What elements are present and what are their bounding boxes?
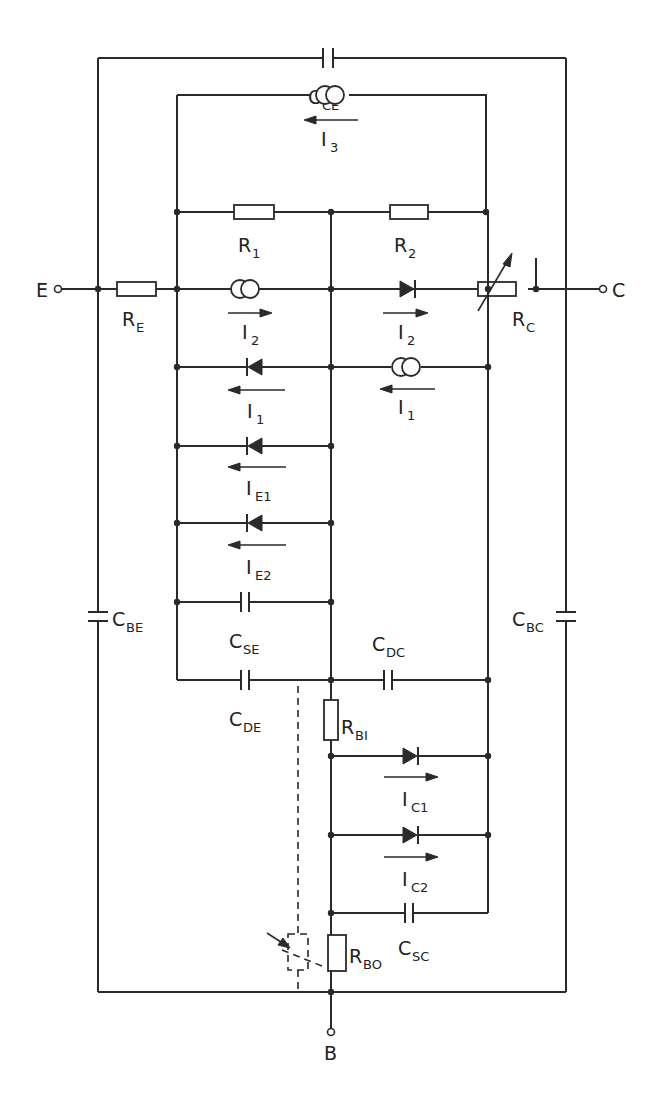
svg-text:BC: BC bbox=[526, 620, 544, 635]
svg-text:I: I bbox=[247, 400, 253, 422]
arrow-left-icon bbox=[304, 116, 358, 124]
svg-text:C2: C2 bbox=[411, 880, 428, 895]
resistor-r-bo bbox=[328, 935, 346, 971]
transistor-equivalent-circuit: C CE C BE C BC E C R E I 2 bbox=[0, 0, 659, 1102]
diode-i1 bbox=[247, 358, 262, 376]
svg-text:E: E bbox=[36, 279, 48, 301]
svg-text:C: C bbox=[612, 279, 625, 301]
label-r-bo: R BO bbox=[349, 945, 382, 972]
resistor-r-bi bbox=[324, 700, 338, 740]
label-i2-diode: I 2 bbox=[398, 321, 415, 348]
arrow-left-icon bbox=[228, 541, 286, 549]
svg-text:2: 2 bbox=[408, 246, 416, 261]
svg-text:1: 1 bbox=[256, 412, 264, 427]
svg-text:DC: DC bbox=[386, 645, 405, 660]
label-i-c1: I C1 bbox=[402, 788, 428, 815]
arrow-right-icon bbox=[383, 309, 428, 317]
svg-text:R: R bbox=[341, 716, 354, 738]
diode-i2 bbox=[400, 280, 415, 298]
label-r-2: R 2 bbox=[394, 234, 416, 261]
arrow-right-icon bbox=[384, 853, 438, 861]
svg-text:C: C bbox=[512, 608, 525, 630]
arrow-left-icon bbox=[380, 385, 435, 393]
arrow-left-icon bbox=[228, 463, 286, 471]
base-terminal: B bbox=[324, 1029, 337, 1065]
collector-terminal: C bbox=[600, 279, 626, 301]
resistor-r-1 bbox=[234, 205, 274, 219]
svg-text:R: R bbox=[122, 308, 135, 330]
svg-text:BE: BE bbox=[126, 620, 143, 635]
svg-text:I: I bbox=[402, 788, 408, 810]
label-i-e1: I E1 bbox=[246, 477, 272, 504]
svg-text:C: C bbox=[112, 608, 125, 630]
label-c-sc: C SC bbox=[398, 937, 429, 964]
svg-text:E1: E1 bbox=[255, 489, 272, 504]
label-r-1: R 1 bbox=[238, 234, 260, 261]
svg-text:I: I bbox=[398, 396, 404, 418]
label-i3: I 3 bbox=[321, 128, 338, 155]
label-r-bi: R BI bbox=[341, 716, 368, 743]
svg-text:1: 1 bbox=[407, 408, 415, 423]
label-r-e: R E bbox=[122, 308, 144, 335]
label-i2-source: I 2 bbox=[242, 321, 259, 348]
arrow-right-icon bbox=[228, 309, 272, 317]
svg-text:2: 2 bbox=[407, 333, 415, 348]
svg-text:SE: SE bbox=[243, 642, 259, 657]
svg-text:I: I bbox=[246, 477, 252, 499]
svg-text:B: B bbox=[324, 1042, 337, 1064]
svg-text:I: I bbox=[402, 868, 408, 890]
svg-text:I: I bbox=[398, 321, 404, 343]
label-r-c: R C bbox=[512, 308, 535, 335]
svg-text:C: C bbox=[398, 937, 411, 959]
emitter-terminal: E bbox=[36, 279, 62, 301]
diode-i-c1 bbox=[403, 747, 418, 765]
svg-text:BO: BO bbox=[363, 957, 382, 972]
svg-text:C: C bbox=[229, 630, 242, 652]
variable-resistor-r-c bbox=[478, 253, 516, 311]
diode-i-e1 bbox=[247, 437, 262, 455]
svg-text:2: 2 bbox=[251, 333, 259, 348]
svg-text:E: E bbox=[136, 320, 144, 335]
arrow-left-icon bbox=[228, 386, 285, 394]
svg-text:1: 1 bbox=[252, 246, 260, 261]
svg-text:R: R bbox=[349, 945, 362, 967]
resistor-r-e bbox=[117, 282, 156, 296]
current-source-i2 bbox=[231, 280, 259, 298]
label-i-e2: I E2 bbox=[246, 556, 272, 583]
svg-text:I: I bbox=[321, 128, 327, 150]
diode-i-c2 bbox=[403, 826, 418, 844]
current-source-i1 bbox=[392, 358, 420, 376]
svg-text:C: C bbox=[229, 708, 242, 730]
svg-text:C1: C1 bbox=[411, 800, 428, 815]
svg-text:I: I bbox=[242, 321, 248, 343]
current-source-i3 bbox=[316, 86, 344, 104]
label-c-dc: C DC bbox=[372, 633, 405, 660]
arrow-right-icon bbox=[384, 773, 438, 781]
label-i1-source: I 1 bbox=[398, 396, 415, 423]
svg-text:R: R bbox=[238, 234, 251, 256]
svg-text:R: R bbox=[512, 308, 525, 330]
svg-text:C: C bbox=[526, 320, 535, 335]
resistor-r-2 bbox=[390, 205, 428, 219]
label-c-be: C BE bbox=[112, 608, 143, 635]
svg-text:BI: BI bbox=[355, 728, 368, 743]
svg-text:E2: E2 bbox=[255, 568, 272, 583]
svg-text:3: 3 bbox=[330, 140, 338, 155]
svg-text:C: C bbox=[372, 633, 385, 655]
label-c-de: C DE bbox=[229, 708, 261, 735]
label-i-c2: I C2 bbox=[402, 868, 428, 895]
label-i1-diode: I 1 bbox=[247, 400, 264, 427]
diode-i-e2 bbox=[247, 514, 262, 532]
svg-text:DE: DE bbox=[243, 720, 261, 735]
label-c-se: C SE bbox=[229, 630, 259, 657]
dashed-variable-resistor bbox=[267, 686, 322, 992]
svg-text:I: I bbox=[246, 556, 252, 578]
svg-text:R: R bbox=[394, 234, 407, 256]
svg-text:SC: SC bbox=[412, 949, 429, 964]
label-c-bc: C BC bbox=[512, 608, 544, 635]
